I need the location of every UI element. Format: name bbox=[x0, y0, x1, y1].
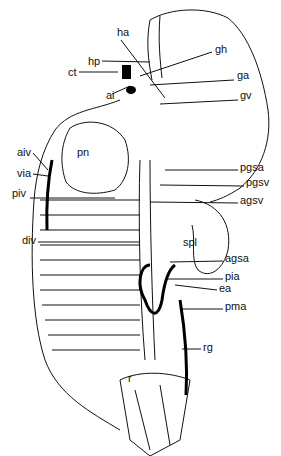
label-gh: gh bbox=[215, 44, 227, 55]
gizzard-outline bbox=[150, 10, 269, 202]
label-pn: pn bbox=[77, 147, 89, 158]
label-pgsa: pgsa bbox=[240, 162, 264, 173]
vessel-loop bbox=[140, 265, 175, 313]
spleen-outline bbox=[192, 200, 229, 274]
label-via: via bbox=[17, 168, 31, 179]
label-piv: piv bbox=[12, 188, 26, 199]
label-hp: hp bbox=[88, 56, 100, 67]
label-ct: ct bbox=[68, 67, 77, 78]
label-ha: ha bbox=[117, 27, 129, 38]
label-ai: ai bbox=[106, 90, 115, 101]
label-spl: spl bbox=[183, 237, 197, 248]
label-pma: pma bbox=[225, 301, 246, 312]
label-ga: ga bbox=[237, 70, 249, 81]
pn-outline bbox=[62, 122, 129, 193]
label-div: div bbox=[22, 235, 36, 246]
vein-left bbox=[47, 160, 52, 230]
label-gv: gv bbox=[240, 90, 252, 101]
label-agsa: agsa bbox=[225, 253, 249, 264]
label-aiv: aiv bbox=[17, 147, 31, 158]
label-agsv: agsv bbox=[240, 195, 263, 206]
label-rg: rg bbox=[203, 342, 213, 353]
label-ea: ea bbox=[219, 283, 231, 294]
label-pia: pia bbox=[225, 271, 240, 282]
label-r: r bbox=[128, 373, 132, 384]
ct-block bbox=[122, 65, 131, 79]
label-pgsv: pgsv bbox=[246, 177, 269, 188]
tail-outline bbox=[120, 373, 190, 456]
